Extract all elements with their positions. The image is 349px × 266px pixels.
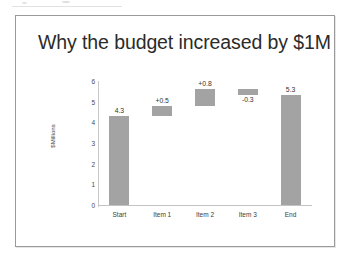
y-tick-label: 2 xyxy=(81,160,95,167)
bar-value-label: +0.5 xyxy=(155,97,168,104)
bar-value-label: +0.8 xyxy=(198,80,211,87)
chart-bar xyxy=(238,89,258,95)
bar-value-label: 4.3 xyxy=(115,107,124,114)
chart-bar-column: +0.8Item 2 xyxy=(195,71,215,193)
chart-bar xyxy=(152,106,172,116)
x-category-label: Item 2 xyxy=(196,211,214,218)
slide-frame: Why the budget increased by $1M $Million… xyxy=(15,15,335,247)
y-axis-line xyxy=(98,81,99,207)
y-tick-label: 1 xyxy=(81,181,95,188)
y-tick-label: 5 xyxy=(81,98,95,105)
scan-artifact-line xyxy=(12,6,122,7)
bar-value-label: -0.3 xyxy=(242,96,254,103)
x-category-label: Item 1 xyxy=(153,211,171,218)
x-axis-line xyxy=(98,205,312,206)
x-category-label: Item 3 xyxy=(239,211,257,218)
x-category-label: End xyxy=(285,211,297,218)
y-axis-ticks: 0123456 xyxy=(77,71,95,231)
scan-artifact xyxy=(22,2,27,4)
chart-bar xyxy=(109,116,129,205)
bar-value-label: 5.3 xyxy=(286,86,295,93)
chart-bar-column: +0.5Item 1 xyxy=(152,71,172,193)
scan-artifact xyxy=(62,1,70,3)
waterfall-chart: $Millions 0123456 4.3Start+0.5Item 1+0.8… xyxy=(55,71,317,231)
x-category-label: Start xyxy=(113,211,127,218)
page-title: Why the budget increased by $1M xyxy=(38,31,331,54)
chart-bar-column: -0.3Item 3 xyxy=(238,71,258,193)
y-tick-label: 3 xyxy=(81,140,95,147)
chart-bar xyxy=(195,89,215,106)
y-tick-label: 4 xyxy=(81,119,95,126)
y-tick-label: 0 xyxy=(81,202,95,209)
y-axis-title: $Millions xyxy=(50,124,56,147)
chart-bar-column: 5.3End xyxy=(281,71,301,193)
chart-bar xyxy=(281,95,301,205)
chart-bar-column: 4.3Start xyxy=(109,71,129,193)
y-tick-label: 6 xyxy=(81,78,95,85)
